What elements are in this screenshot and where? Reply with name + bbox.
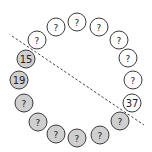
node-ring-diagram: ?????37??????1915?? <box>0 0 152 152</box>
node-label: ? <box>22 99 27 109</box>
node-label: ? <box>75 18 80 28</box>
node-label: ? <box>75 134 80 144</box>
unknown-node: ? <box>110 31 128 49</box>
unknown-node: ? <box>124 71 142 89</box>
value-node: 37 <box>123 94 141 112</box>
node-label: ? <box>54 130 59 140</box>
unknown-node: ? <box>68 13 86 31</box>
node-label: 19 <box>13 75 26 86</box>
unknown-node: ? <box>15 94 33 112</box>
unknown-node: ? <box>68 129 86 147</box>
unknown-node: ? <box>90 18 108 36</box>
unknown-node: ? <box>28 31 46 49</box>
node-label: 37 <box>126 98 139 109</box>
node-label: ? <box>131 76 136 86</box>
unknown-node: ? <box>29 113 47 131</box>
node-label: ? <box>117 36 122 46</box>
node-label: ? <box>126 54 131 64</box>
node-label: ? <box>98 131 103 141</box>
value-node: 15 <box>17 50 35 68</box>
value-node: 19 <box>10 71 28 89</box>
node-label: ? <box>54 23 59 33</box>
unknown-node: ? <box>91 126 109 144</box>
node-label: ? <box>118 117 123 127</box>
unknown-node: ? <box>47 18 65 36</box>
unknown-node: ? <box>47 125 65 143</box>
node-label: ? <box>97 23 102 33</box>
node-label: ? <box>35 36 40 46</box>
unknown-node: ? <box>119 49 137 67</box>
node-label: ? <box>36 118 41 128</box>
nodes-layer: ?????37??????1915?? <box>10 13 142 147</box>
diagram-canvas: ?????37??????1915?? <box>0 0 152 152</box>
node-label: 15 <box>20 54 33 65</box>
unknown-node: ? <box>111 112 129 130</box>
